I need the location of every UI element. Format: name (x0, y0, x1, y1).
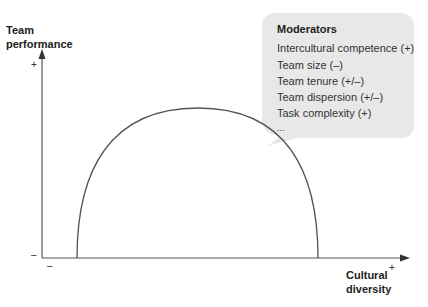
y-minus-tick: – (31, 249, 37, 260)
moderators-list: Moderators Intercultural competence (+) … (277, 21, 414, 134)
x-axis-label: Cultural diversity (346, 268, 391, 296)
y-plus-tick: + (31, 59, 37, 70)
x-minus-tick: – (47, 260, 53, 271)
moderator-item: Team tenure (+/–) (277, 73, 414, 89)
x-axis-label-line1: Cultural (346, 268, 391, 282)
moderator-item: ... (277, 122, 414, 134)
moderators-title: Moderators (277, 21, 414, 37)
x-axis-arrow-icon (400, 255, 410, 262)
moderator-item: Team size (–) (277, 57, 414, 73)
moderator-item: Intercultural competence (+) (277, 40, 414, 56)
y-axis-label: Team performance (6, 23, 73, 51)
y-axis-label-line2: performance (6, 37, 73, 51)
moderator-item: Task complexity (+) (277, 105, 414, 121)
moderator-item: Team dispersion (+/–) (277, 89, 414, 105)
x-axis-label-line2: diversity (346, 282, 391, 296)
y-axis-label-line1: Team (6, 23, 73, 37)
